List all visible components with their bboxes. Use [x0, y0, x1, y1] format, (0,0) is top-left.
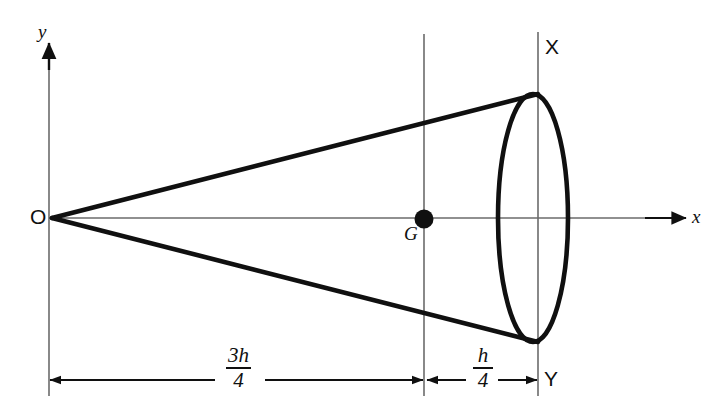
fraction-numerator: 3h — [226, 345, 251, 367]
dimension-label-h-over-4: h 4 — [473, 345, 493, 392]
base-top-label-X: X — [545, 36, 559, 57]
axis-lines — [49, 43, 686, 396]
centroid-label-G: G — [404, 224, 418, 243]
dimension-label-3h-over-4: 3h 4 — [226, 345, 251, 392]
fraction-denominator: 4 — [231, 369, 246, 391]
cone-centroid-figure: y x O G X Y 3h 4 h 4 — [0, 0, 724, 419]
cone-upper-slant — [52, 94, 538, 218]
y-axis-label: y — [38, 22, 46, 41]
figure-canvas — [0, 0, 724, 419]
origin-label-O: O — [30, 206, 46, 227]
x-axis-label: x — [692, 207, 700, 226]
fraction-denominator: 4 — [476, 369, 491, 391]
cone-lower-slant — [52, 218, 538, 342]
fraction-numerator: h — [476, 345, 491, 367]
base-bottom-label-Y: Y — [544, 368, 558, 389]
guide-lines — [424, 32, 538, 396]
